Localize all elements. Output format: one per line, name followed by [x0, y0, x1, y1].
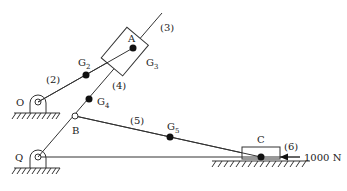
link-3-rod — [38, 13, 162, 157]
joint-A — [130, 45, 137, 52]
label-G3: G3 — [146, 57, 158, 71]
label-link-5: (5) — [130, 115, 144, 126]
ground-slider-C — [212, 161, 310, 167]
label-link-6: (6) — [284, 141, 298, 152]
cg-G5 — [167, 134, 174, 141]
label-A: A — [127, 33, 136, 44]
joint-C — [258, 154, 265, 161]
joint-B — [72, 113, 78, 119]
label-O: O — [16, 97, 24, 108]
label-C: C — [257, 134, 265, 145]
label-B: B — [72, 125, 79, 136]
cg-G2 — [83, 72, 90, 79]
mechanism-diagram: (3) A G3 G2 (2) (4) G4 O B (5) G5 Q C (6… — [0, 0, 347, 191]
label-G4: G4 — [97, 96, 110, 110]
force-arrowhead — [280, 154, 288, 161]
cg-G4 — [86, 96, 93, 103]
label-link-3: (3) — [160, 22, 174, 33]
label-G2: G2 — [78, 57, 90, 71]
label-link-2: (2) — [46, 74, 60, 85]
label-Q: Q — [15, 152, 23, 163]
label-link-4: (4) — [112, 80, 126, 91]
label-G5: G5 — [167, 121, 179, 135]
label-force: 1000 N — [304, 152, 342, 163]
slider-block-A — [101, 27, 148, 76]
